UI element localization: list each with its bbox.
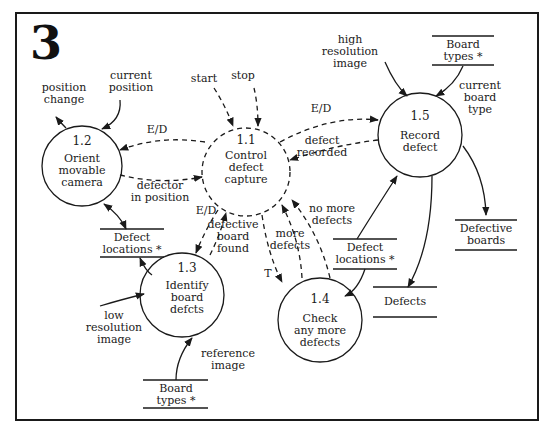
process-1-1-label: Control defect capture [224, 150, 267, 186]
flow-current-board-type: current board type [459, 80, 501, 116]
flow-ed-1-3: E/D [196, 205, 217, 217]
flow-more-defects: more defects [270, 228, 310, 252]
store-defect-locations-left: Defect locations * [102, 232, 161, 256]
flow-reference-image: reference image [201, 348, 255, 372]
flow-start: start [191, 73, 217, 85]
flow-defective-board-found: defective board found [208, 219, 259, 255]
flow-no-more-defects: no more defects [309, 203, 355, 227]
flow-high-resolution-image: high resolution image [322, 34, 378, 70]
process-1-1-id: 1.1 [236, 134, 255, 146]
flow-low-resolution-image: low resolution image [86, 310, 142, 346]
flow-defect-recorded: defect recorded [297, 135, 347, 159]
flow-stop: stop [231, 70, 255, 82]
flow-t: T [264, 268, 271, 280]
process-1-5-label: Record defect [400, 130, 440, 154]
process-1-5-id: 1.5 [410, 110, 429, 122]
flow-current-position: current position [109, 70, 153, 94]
diagram-canvas [0, 0, 550, 433]
store-board-types-bottom: Board types * [157, 383, 196, 407]
process-1-2-label: Orient movable camera [59, 153, 106, 189]
flow-ed-1-2: E/D [147, 124, 168, 136]
figure-number: 3 [30, 20, 62, 66]
flow-defector-in-position: defector in position [131, 180, 190, 204]
process-1-4-label: Check any more defects [294, 313, 346, 349]
store-board-types-top: Board types * [444, 39, 483, 63]
process-1-3-label: Identify board defcts [165, 280, 208, 316]
process-1-3-id: 1.3 [177, 262, 196, 274]
process-1-4-id: 1.4 [310, 293, 329, 305]
flow-ed-1-5: E/D [311, 103, 332, 115]
process-1-2-id: 1.2 [72, 135, 91, 147]
store-defects: Defects [384, 296, 426, 308]
store-defective-boards: Defective boards [460, 223, 513, 247]
store-defect-locations-right: Defect locations * [335, 242, 394, 266]
flow-position-change: position change [42, 82, 86, 106]
